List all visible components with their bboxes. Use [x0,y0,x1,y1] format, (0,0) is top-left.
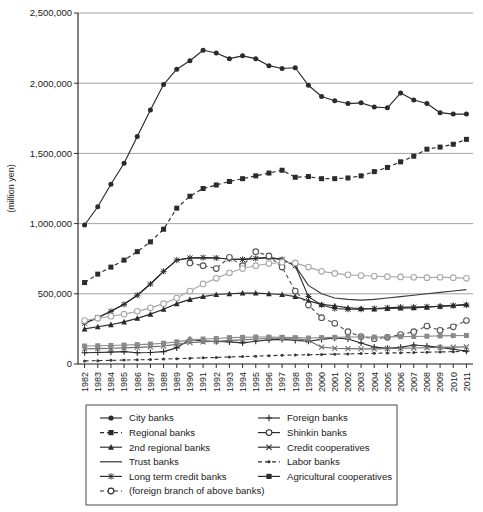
x-tick-label: 1983 [93,372,103,392]
legend: City banksRegional banks2nd regional ban… [86,405,397,505]
legend-label: Long term credit banks [129,471,227,482]
x-tick-label: 2003 [356,372,366,392]
x-tick-label: 2009 [435,372,445,392]
y-tick-label: 2,500,000 [30,7,72,18]
series-0 [82,48,469,228]
x-tick-label: 1991 [198,372,208,392]
x-tick-label: 2011 [462,372,472,391]
legend-item[interactable]: City banks [100,412,174,423]
legend-item[interactable]: Trust banks [100,456,179,467]
x-tick-label: 1993 [225,372,235,392]
legend-item[interactable]: Foreign banks [258,412,348,423]
legend-item[interactable]: Credit cooperatives [258,442,370,453]
series-line [85,258,467,324]
legend-label: Agricultural cooperatives [287,471,392,482]
x-tick-label: 1985 [119,372,129,392]
x-tick-label: 1988 [159,372,169,392]
series-4 [82,255,470,327]
series-group [81,48,469,363]
x-tick-label: 2006 [396,372,406,392]
x-tick-label: 2005 [383,372,393,392]
series-7 [82,259,469,323]
x-tick-label: 2001 [330,372,340,392]
series-line [85,338,467,353]
x-tick-label: 1997 [277,372,287,392]
y-tick-label: 500,000 [38,288,72,299]
series-10 [82,333,469,349]
x-tick-label: 1990 [185,372,195,392]
legend-item[interactable]: Shinkin banks [258,427,347,438]
legend-label: Regional banks [129,427,195,438]
y-tick-label: 1,500,000 [30,148,72,159]
y-tick-label: 2,000,000 [30,78,72,89]
gridlines: 0500,0001,000,0001,500,0002,000,0002,500… [30,7,473,369]
x-tick-label: 2002 [343,372,353,392]
legend-item[interactable]: Agricultural cooperatives [258,471,392,482]
x-tick-label: 1999 [304,372,314,392]
series-line [85,293,467,329]
legend-label: Credit cooperatives [287,442,370,453]
legend-item[interactable]: Labor banks [258,456,340,467]
legend-item[interactable]: Regional banks [100,427,195,438]
x-tick-label: 2010 [449,372,459,392]
x-tick-label: 1989 [172,372,182,392]
chart-container: 0500,0001,000,0001,500,0002,000,0002,500… [0,0,483,512]
legend-label: Trust banks [129,456,179,467]
series-3 [85,258,467,324]
legend-label: Shinkin banks [287,427,347,438]
line-chart: 0500,0001,000,0001,500,0002,000,0002,500… [0,0,483,512]
series-line [85,258,467,324]
series-line [85,50,467,225]
x-tick-label: 2007 [409,372,419,392]
x-tick-label: 1998 [291,372,301,392]
x-tick-label: 1984 [106,372,116,392]
x-tick-label: 1987 [146,372,156,392]
x-tick-label: 2000 [317,372,327,392]
x-tick-label: 1995 [251,372,261,392]
series-9 [83,350,468,363]
legend-item[interactable]: Long term credit banks [100,471,227,482]
x-axis-labels: 1982198319841985198619871988198919901991… [80,364,472,392]
legend-label: City banks [129,412,174,423]
legend-item[interactable]: 2nd regional banks [100,442,210,453]
x-tick-label: 2008 [422,372,432,392]
y-tick-label: 0 [67,358,72,369]
y-tick-label: 1,000,000 [30,218,72,229]
x-tick-label: 1992 [212,372,222,392]
x-tick-label: 1982 [80,372,90,392]
legend-label: (foreign branch of above banks) [129,485,264,496]
x-tick-label: 1996 [264,372,274,392]
x-tick-label: 2004 [370,372,380,392]
series-8 [82,336,469,352]
x-tick-label: 1994 [238,372,248,392]
y-axis-title: (million yen) [6,164,16,213]
legend-label: 2nd regional banks [129,442,210,453]
series-line [85,336,467,347]
legend-label: Labor banks [287,456,340,467]
x-tick-label: 1986 [133,372,143,392]
legend-label: Foreign banks [287,412,348,423]
legend-item[interactable]: (foreign branch of above banks) [100,485,264,496]
